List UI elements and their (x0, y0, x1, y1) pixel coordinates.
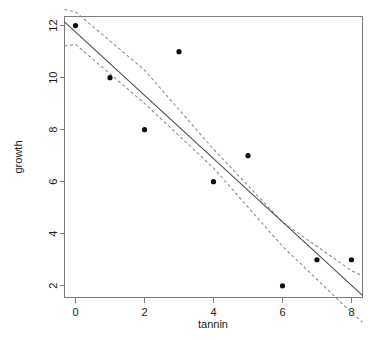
data-point (349, 257, 354, 262)
x-tick-label-8: 8 (348, 306, 354, 318)
data-point (176, 49, 181, 54)
data-point (73, 23, 78, 28)
y-tick-label-10: 10 (48, 72, 60, 84)
x-axis-title: tannin (198, 318, 228, 330)
plot-canvas: 02468 24681012 tannin growth (0, 0, 391, 340)
data-point (211, 179, 216, 184)
data-point (142, 127, 147, 132)
y-axis-title: growth (12, 140, 24, 173)
data-point (280, 283, 285, 288)
x-tick-label-4: 4 (210, 306, 216, 318)
x-tick-label-6: 6 (279, 306, 285, 318)
x-tick-label-0: 0 (72, 306, 78, 318)
data-point (314, 257, 319, 262)
data-point (245, 153, 250, 158)
y-tick-label-8: 8 (48, 127, 60, 133)
y-tick-label-4: 4 (48, 231, 60, 237)
y-tick-label-2: 2 (48, 283, 60, 289)
regression-plot-figure: 02468 24681012 tannin growth (0, 0, 391, 340)
x-tick-label-2: 2 (141, 306, 147, 318)
y-tick-label-6: 6 (48, 179, 60, 185)
data-point (107, 75, 112, 80)
y-tick-label-12: 12 (48, 19, 60, 31)
